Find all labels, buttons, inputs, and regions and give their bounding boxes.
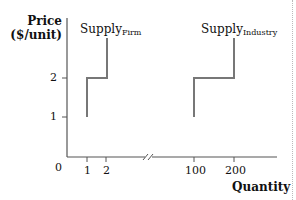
supply-industry-label-main: Supply xyxy=(201,22,243,36)
x-tick-label-2: 2 xyxy=(103,164,110,177)
origin-label: 0 xyxy=(55,161,62,174)
y-axis-title: Price ($/unit) xyxy=(10,14,62,42)
y-axis-title-line2: ($/unit) xyxy=(10,28,62,42)
supply-firm-curve xyxy=(87,38,107,117)
supply-industry-curve xyxy=(194,38,234,117)
x-tick-label-1: 1 xyxy=(84,164,91,177)
supply-diagram: Price ($/unit) 2 1 0 1 2 100 200 Quantit… xyxy=(0,0,296,200)
x-axis-title: Quantity xyxy=(232,180,290,194)
supply-firm-label: SupplyFirm xyxy=(80,22,141,37)
page-edge-dotted-line xyxy=(292,0,293,200)
supply-firm-label-main: Supply xyxy=(80,22,122,36)
supply-firm-label-sub: Firm xyxy=(122,28,142,37)
y-tick-label-2: 2 xyxy=(50,71,57,84)
y-tick-label-1: 1 xyxy=(50,110,57,123)
supply-industry-label-sub: Industry xyxy=(243,28,277,37)
x-tick-label-100: 100 xyxy=(185,164,206,177)
y-axis-title-line1: Price xyxy=(10,14,62,28)
x-tick-label-200: 200 xyxy=(225,164,246,177)
supply-industry-label: SupplyIndustry xyxy=(201,22,277,37)
